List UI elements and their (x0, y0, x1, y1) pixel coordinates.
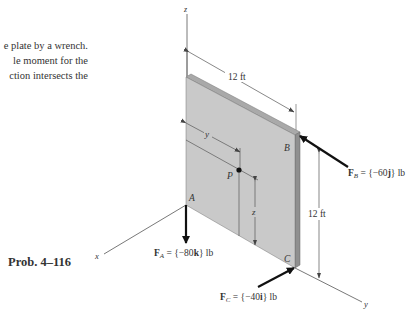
x-axis (104, 205, 186, 254)
point-a-label: A (188, 193, 195, 203)
plate-force-diagram: z 12 ft y z P A B C x y 12 ft FA = {−80k… (0, 0, 414, 314)
y-coordinate-label: y (204, 129, 209, 139)
force-c-arrow (258, 268, 294, 287)
point-b-label: B (284, 143, 290, 153)
point-c-label: C (284, 254, 291, 264)
force-c-label: FC = {−40i} lb (220, 292, 277, 304)
force-a-label: FA = {−80k} lb (154, 248, 213, 260)
width-dimension-label: 12 ft (228, 72, 246, 82)
height-dimension-label: 12 ft (308, 209, 326, 219)
plate-right-edge (295, 132, 300, 268)
y-axis-label: y (363, 299, 368, 309)
force-b-label: FB = {−60j} lb (348, 168, 405, 180)
point-p-label: P (226, 171, 233, 181)
x-axis-label: x (94, 251, 99, 261)
z-axis-label: z (183, 5, 188, 14)
y-axis (295, 268, 362, 302)
force-b-arrow (300, 136, 348, 167)
z-coordinate-label: z (251, 207, 256, 217)
point-p (236, 167, 241, 172)
